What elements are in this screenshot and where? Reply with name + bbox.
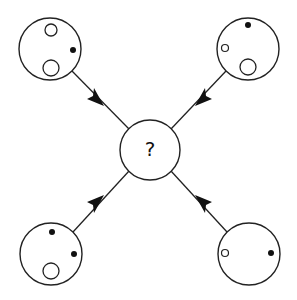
arrow-icon-bottom-left [87,195,104,213]
arrow-icon-bottom-right [195,195,212,213]
filled-dot [49,229,55,235]
outer-circle-top-right [217,18,279,80]
open-circle [222,45,229,52]
arrow-icon-top-right [195,88,212,106]
filled-dot [268,250,274,256]
arrow-icon-top-left [87,88,104,106]
filled-dot [71,251,77,257]
open-circle [240,59,256,75]
question-mark-label: ? [130,137,170,161]
open-circle [45,24,57,36]
line-bottom-left [73,171,129,232]
filled-dot [70,47,76,53]
filled-dot [245,22,251,28]
open-circle [43,60,59,76]
outer-circle-top-left [19,18,81,80]
open-circle [222,250,229,257]
outer-circle-bottom-right [218,223,280,285]
outer-circle-bottom-left [20,223,82,285]
open-circle [43,263,59,279]
